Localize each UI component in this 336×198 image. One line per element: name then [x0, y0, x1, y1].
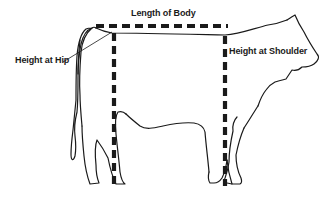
hip-leader-line	[63, 32, 112, 62]
height-at-hip-label: Height at Hip	[15, 55, 69, 65]
cow-illustration	[0, 0, 336, 198]
cow-outline	[71, 15, 318, 184]
cow-measurement-diagram: Length of Body Height at Hip Height at S…	[0, 0, 336, 198]
height-at-shoulder-label: Height at Shoulder	[229, 46, 307, 56]
length-of-body-label: Length of Body	[131, 8, 196, 18]
